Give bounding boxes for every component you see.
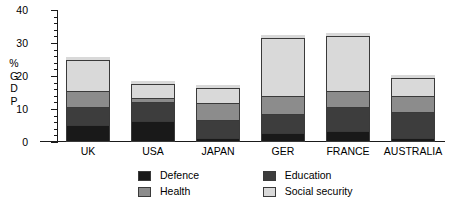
bar-segment-education (131, 103, 175, 121)
bar-segment-education (196, 121, 240, 138)
legend-swatch-icon (263, 187, 276, 197)
legend-swatch-icon (138, 187, 151, 197)
bar-segment-social-security (391, 75, 435, 96)
y-axis-tick-label: 30 (16, 38, 28, 48)
bar-segment-defence (131, 122, 175, 142)
bar-segment-education (66, 108, 110, 125)
bar-segment-health (261, 97, 305, 114)
bar-segment-education (326, 108, 370, 131)
bar-segment-defence (66, 126, 110, 143)
x-axis-tick-label: GER (272, 145, 295, 158)
x-axis-tick-labels: UKUSAJAPANGERFRANCEAUSTRALIA (58, 145, 440, 161)
y-axis-tick-label: 20 (16, 71, 28, 81)
bar-segment-defence (326, 132, 370, 142)
bar-segment-health (196, 104, 240, 121)
y-axis-tick-label: 10 (16, 104, 28, 114)
bar-usa (131, 81, 175, 142)
bar-segment-social-security (131, 81, 175, 98)
bar-uk (66, 57, 110, 142)
bar-japan (196, 85, 240, 142)
bar-france (326, 33, 370, 142)
bar-segment-social-security (196, 85, 240, 103)
y-axis-tick-labels: 010203040 (0, 10, 44, 142)
bar-segment-social-security (261, 35, 305, 96)
legend-label: Health (160, 186, 190, 197)
y-axis-ticks (44, 10, 58, 142)
legend-item-health: Health (138, 186, 235, 197)
bar-segment-defence (391, 139, 435, 142)
bar-segment-social-security (66, 57, 110, 92)
legend-item-defence: Defence (138, 170, 235, 181)
bar-segment-health (66, 92, 110, 107)
x-axis-tick-label: FRANCE (326, 145, 369, 158)
bar-segment-health (326, 92, 370, 107)
bar-segment-defence (261, 134, 305, 142)
x-axis-tick-label: JAPAN (201, 145, 234, 158)
y-axis-tick-label: 0 (22, 137, 28, 147)
bar-australia (391, 75, 435, 142)
legend-swatch-icon (263, 171, 276, 181)
y-axis-major-tick (51, 142, 58, 143)
legend-item-education: Education (263, 170, 388, 181)
bar-segment-health (391, 97, 435, 112)
stacked-bar-chart: % G D P 010203040 UKUSAJAPANGERFRANCEAUS… (0, 0, 454, 219)
legend-item-social-security: Social security (263, 186, 388, 197)
chart-legend: DefenceEducationHealthSocial security (138, 170, 388, 197)
legend-swatch-icon (138, 171, 151, 181)
bar-ger (261, 35, 305, 142)
x-axis-tick-label: UK (81, 145, 96, 158)
y-axis-tick-label: 40 (16, 5, 28, 15)
legend-label: Education (285, 170, 332, 181)
bar-segment-social-security (326, 33, 370, 91)
legend-label: Social security (285, 186, 353, 197)
x-axis-tick-label: AUSTRALIA (384, 145, 442, 158)
bars-container (58, 10, 440, 142)
bar-segment-defence (196, 139, 240, 142)
x-axis-tick-label: USA (142, 145, 164, 158)
bar-segment-education (391, 113, 435, 138)
bar-segment-education (261, 115, 305, 133)
legend-label: Defence (160, 170, 199, 181)
